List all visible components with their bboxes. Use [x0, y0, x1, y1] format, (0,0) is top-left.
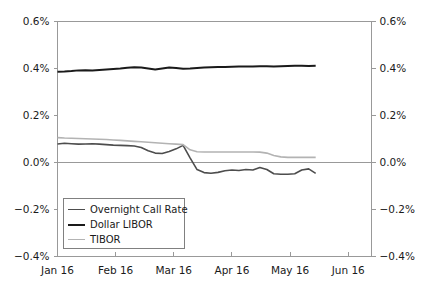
legend-item-label: Dollar LIBOR [90, 220, 153, 230]
y-axis-right-tick: 0.6% [380, 16, 407, 27]
y-axis-left-tick: 0.2% [0, 110, 50, 121]
legend-item-label: TIBOR [90, 235, 121, 245]
x-axis-tick: Feb 16 [86, 265, 146, 276]
x-axis-tick: Mar 16 [144, 265, 204, 276]
series-line-tibor [58, 138, 316, 158]
chart-plot-area [0, 0, 432, 293]
legend-item: Overnight Call Rate [68, 202, 180, 217]
y-axis-right-tick: 0.2% [380, 110, 407, 121]
legend-line-swatch [68, 209, 85, 210]
x-axis-tick: Apr 16 [202, 265, 262, 276]
x-axis-tick: May 16 [260, 265, 320, 276]
y-axis-left-tick: −0.4% [0, 251, 50, 262]
x-axis-tick: Jan 16 [28, 265, 88, 276]
chart-legend: Overnight Call RateDollar LIBORTIBOR [63, 198, 185, 249]
legend-item-label: Overnight Call Rate [90, 205, 188, 215]
y-axis-right-tick: −0.2% [380, 204, 415, 215]
x-axis-tick: Jun 16 [318, 265, 378, 276]
legend-line-swatch [68, 239, 85, 240]
legend-item: Dollar LIBOR [68, 217, 180, 232]
y-axis-left-tick: −0.2% [0, 204, 50, 215]
series-group [58, 66, 316, 175]
y-axis-left-tick: 0.4% [0, 63, 50, 74]
line-chart: 0.6%0.4%0.2%0.0%−0.2%−0.4% 0.6%0.4%0.2%0… [0, 0, 432, 293]
y-axis-left-tick: 0.0% [0, 157, 50, 168]
y-axis-right-tick: −0.4% [380, 251, 415, 262]
y-axis-right-tick: 0.4% [380, 63, 407, 74]
legend-item: TIBOR [68, 232, 180, 247]
series-line-dollar-libor [58, 66, 316, 72]
legend-line-swatch [68, 224, 85, 226]
y-axis-left-tick: 0.6% [0, 16, 50, 27]
y-axis-right-tick: 0.0% [380, 157, 407, 168]
